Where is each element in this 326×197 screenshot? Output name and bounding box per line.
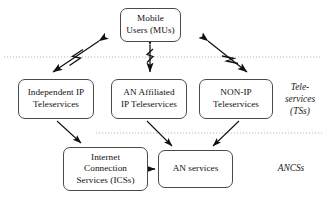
node-mobile-users-line-1: Mobile <box>137 13 164 25</box>
node-internet-connection-services-line-2: Connection <box>84 163 127 175</box>
connector-non-ip-to-an-services <box>213 121 239 146</box>
connector-mu-to-independent-ip <box>53 41 99 72</box>
ancss-zone-label-line-1: ANCSs <box>265 163 317 175</box>
teleservices-zone-label-line-1: Tele- <box>277 82 323 94</box>
node-non-ip-teleservices-line-2: Teleservices <box>213 99 259 111</box>
node-internet-connection-services-line-3: Services (ICSs) <box>76 175 134 187</box>
teleservices-zone-label: Tele- services (TSs) <box>277 82 323 117</box>
ancss-zone-label: ANCSs <box>265 163 317 175</box>
node-an-affiliated-ip-teleservices-line-1: AN Affiliated <box>123 87 174 99</box>
node-an-services[interactable]: AN services <box>158 150 233 188</box>
node-non-ip-teleservices[interactable]: NON-IP Teleservices <box>199 79 273 119</box>
node-internet-connection-services[interactable]: Internet Connection Services (ICSs) <box>63 147 148 191</box>
node-an-services-line-1: AN services <box>173 163 219 175</box>
teleservices-zone-label-line-3: (TSs) <box>277 106 323 118</box>
connector-an-affiliated-ip-to-an-services <box>147 121 172 146</box>
connector-mu-to-non-ip <box>208 41 247 72</box>
node-independent-ip-teleservices-line-1: Independent IP <box>28 87 85 99</box>
teleservices-zone-label-line-2: services <box>277 94 323 106</box>
connector-independent-ip-to-ics <box>57 121 81 143</box>
node-an-affiliated-ip-teleservices-line-2: IP Teleservices <box>121 99 177 111</box>
node-mobile-users-line-2: Users (MUs) <box>126 25 174 37</box>
node-independent-ip-teleservices[interactable]: Independent IP Teleservices <box>18 79 94 119</box>
node-mobile-users[interactable]: Mobile Users (MUs) <box>120 8 181 42</box>
connector-mu-to-an-affiliated-ip <box>147 45 153 72</box>
node-non-ip-teleservices-line-1: NON-IP <box>220 87 251 99</box>
node-internet-connection-services-line-1: Internet <box>91 152 120 164</box>
node-an-affiliated-ip-teleservices[interactable]: AN Affiliated IP Teleservices <box>111 79 187 119</box>
diagram-canvas: Mobile Users (MUs) Independent IP Telese… <box>0 0 326 197</box>
node-independent-ip-teleservices-line-2: Teleservices <box>33 99 79 111</box>
